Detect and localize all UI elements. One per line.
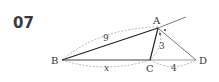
angle-mark-exterior <box>164 29 166 31</box>
triangle-diagram: A B C D 9 3 x 4 <box>0 0 219 82</box>
length-BA: 9 <box>103 33 109 43</box>
angle-mark-interior <box>159 33 161 35</box>
label-B: B <box>51 55 58 66</box>
label-C: C <box>146 63 154 74</box>
segment-BA <box>62 28 158 60</box>
segment-A-extension <box>158 17 186 28</box>
length-AC: 3 <box>159 41 165 51</box>
length-BC: x <box>104 63 109 73</box>
length-CD: 4 <box>171 63 177 73</box>
label-A: A <box>152 15 161 26</box>
label-D: D <box>199 55 207 66</box>
